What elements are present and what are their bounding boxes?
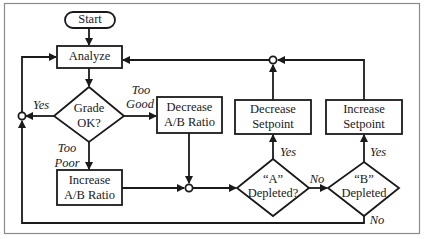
b-depleted-label-line1: “B” [334, 173, 394, 186]
decrease-setpoint-label-line1: Decrease [235, 103, 311, 116]
junction-mid [185, 184, 192, 191]
grade-label-line2: OK? [59, 117, 119, 130]
start-label: Start [65, 13, 115, 26]
edge-label-too-poor-1: Too [52, 142, 82, 155]
increase-setpoint-label-line1: Increase [326, 103, 402, 116]
junction-top [269, 56, 276, 63]
edge-label-too-poor-2: Poor [51, 157, 83, 170]
decrease-ab-label-line2: A/B Ratio [157, 116, 222, 129]
edge-label-no-b: No [367, 214, 387, 227]
b-depleted-label-line2: Depleted [334, 187, 394, 200]
analyze-label: Analyze [57, 50, 122, 63]
increase-setpoint-label-line2: Setpoint [326, 118, 402, 131]
increase-ab-label-line1: Increase [57, 174, 122, 187]
edge-label-yes-grade: Yes [30, 99, 52, 112]
edge-label-yes-a: Yes [277, 146, 299, 159]
edge-label-too-good-1: Too [126, 84, 156, 97]
edge-label-too-good-2: Good [123, 98, 157, 111]
grade-label-line1: Grade [59, 102, 119, 115]
junction-left [18, 112, 25, 119]
edge-label-no-a: No [307, 173, 327, 186]
decrease-setpoint-label-line2: Setpoint [235, 118, 311, 131]
a-depleted-label-line1: “A” [243, 173, 303, 186]
edge-label-yes-b: Yes [367, 146, 389, 159]
a-depleted-label-line2: Depleted? [243, 187, 303, 200]
increase-ab-label-line2: A/B Ratio [57, 189, 122, 202]
decrease-ab-label-line1: Decrease [157, 101, 222, 114]
